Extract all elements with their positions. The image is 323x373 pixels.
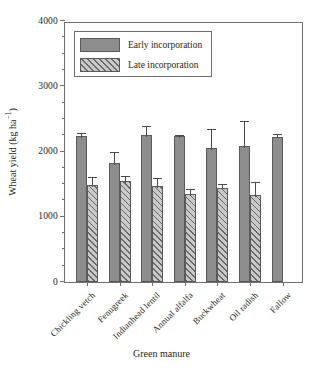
x-tick <box>217 282 218 286</box>
error-bar-cap <box>240 121 249 122</box>
x-category-label: Buckwheat <box>191 290 227 326</box>
x-category-label: Oil radish <box>227 290 260 323</box>
error-bar <box>186 189 195 196</box>
bar-late <box>185 194 196 282</box>
x-tick <box>87 282 88 286</box>
x-tick <box>283 282 284 286</box>
error-bar <box>207 129 216 151</box>
x-tick <box>152 282 153 286</box>
bar-early <box>272 137 283 283</box>
figure-caption <box>0 362 323 373</box>
y-axis-title-superscript: −1 <box>4 112 13 120</box>
bar-early <box>109 163 120 282</box>
error-bar-stem <box>146 126 147 136</box>
x-category-label: Fallow <box>267 290 292 315</box>
error-bar-cap <box>142 126 151 127</box>
legend-item-late: Late incorporation <box>80 56 206 74</box>
error-bar-cap <box>153 178 162 179</box>
y-tick-major <box>60 20 65 21</box>
bar-early <box>206 148 217 282</box>
error-bar-cap <box>251 182 260 183</box>
error-bar <box>240 121 249 148</box>
error-bar-cap <box>186 189 195 190</box>
error-bar <box>142 126 151 136</box>
y-axis-title: Wheat yield (kg ha−1) <box>4 52 17 252</box>
bar-early <box>76 136 87 282</box>
y-axis-title-tail: ) <box>7 108 18 111</box>
bar-late <box>217 188 228 282</box>
y-tick-label: 0 <box>53 277 58 287</box>
y-tick-label: 4000 <box>38 16 58 26</box>
x-axis-title: Green manure <box>0 348 323 359</box>
figure-wheat-yield-by-green-manure: Wheat yield (kg ha−1) 01000200030004000 … <box>0 0 323 373</box>
error-bar-cap <box>175 135 184 136</box>
legend: Early incorporation Late incorporation <box>74 31 212 77</box>
error-bar <box>251 182 260 198</box>
error-bar-cap <box>77 133 86 134</box>
legend-swatch-late-icon <box>80 58 120 72</box>
x-tick <box>120 282 121 286</box>
y-tick-label: 1000 <box>38 212 58 222</box>
error-bar <box>77 133 86 138</box>
error-bar-cap <box>110 152 119 153</box>
bar-late <box>250 195 261 282</box>
error-bar <box>88 177 97 187</box>
error-bar-stem <box>190 189 191 196</box>
bar-early <box>174 136 185 282</box>
error-bar-cap <box>88 177 97 178</box>
plot-area: 01000200030004000 Early incorporation La… <box>64 22 303 283</box>
error-bar-stem <box>157 178 158 188</box>
error-bar-stem <box>211 129 212 151</box>
error-bar <box>121 176 130 183</box>
error-bar-stem <box>92 177 93 187</box>
error-bar-stem <box>114 152 115 165</box>
y-tick-label: 3000 <box>38 82 58 92</box>
error-bar-cap <box>207 129 216 130</box>
x-category-label: Chickling vetch <box>48 290 97 339</box>
error-bar-cap <box>273 134 282 135</box>
bar-late <box>152 186 163 282</box>
bar-late <box>87 185 98 282</box>
error-bar-stem <box>125 176 126 183</box>
bar-late <box>120 181 131 282</box>
error-bar <box>110 152 119 165</box>
error-bar-cap <box>121 176 130 177</box>
x-tick <box>250 282 251 286</box>
legend-label-late: Late incorporation <box>128 60 198 70</box>
y-tick-label: 2000 <box>38 147 58 157</box>
bar-early <box>239 146 250 282</box>
y-axis-title-text: Wheat yield (kg ha <box>7 119 18 195</box>
error-bar <box>153 178 162 188</box>
legend-swatch-early-icon <box>80 38 120 52</box>
legend-item-early: Early incorporation <box>80 36 206 54</box>
error-bar <box>175 135 184 138</box>
error-bar <box>218 184 227 191</box>
error-bar-stem <box>244 121 245 148</box>
error-bar <box>273 134 282 139</box>
error-bar-stem <box>255 182 256 198</box>
legend-label-early: Early incorporation <box>128 40 202 50</box>
bar-early <box>141 135 152 282</box>
x-tick <box>185 282 186 286</box>
error-bar-cap <box>218 184 227 185</box>
